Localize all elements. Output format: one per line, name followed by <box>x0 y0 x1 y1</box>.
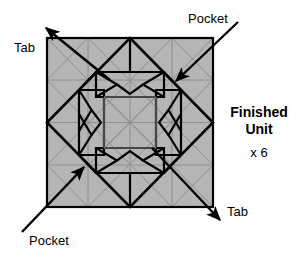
finished-unit-figure: Tab Pocket Pocket Tab Finished Unit x 6 <box>0 0 304 259</box>
finished-unit-line1: Finished <box>230 104 288 120</box>
finished-unit-line2: Unit <box>245 121 273 137</box>
pocket-bottom-left-label: Pocket <box>29 233 69 248</box>
tab-top-left-label: Tab <box>14 40 35 55</box>
pocket-top-right-label: Pocket <box>188 11 228 26</box>
origami-unit-diagram: Tab Pocket Pocket Tab Finished Unit x 6 <box>0 0 304 259</box>
tab-bottom-right-label: Tab <box>227 204 248 219</box>
finished-unit-quantity: x 6 <box>250 145 267 160</box>
